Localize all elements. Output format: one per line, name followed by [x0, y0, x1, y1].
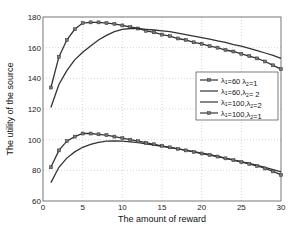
data-marker — [161, 144, 164, 147]
x-tick-label: 0 — [41, 203, 46, 212]
data-marker — [57, 149, 60, 152]
data-marker — [49, 166, 52, 169]
data-marker — [137, 140, 140, 143]
data-marker — [105, 134, 108, 137]
data-marker — [176, 37, 179, 40]
y-tick-label: 60 — [32, 197, 41, 206]
data-marker — [224, 48, 227, 51]
data-marker — [232, 159, 235, 162]
data-marker — [216, 155, 219, 158]
y-tick-label: 120 — [28, 105, 42, 114]
data-marker — [89, 21, 92, 24]
data-marker — [81, 22, 84, 25]
data-marker — [89, 132, 92, 135]
data-marker — [153, 31, 156, 34]
data-marker — [168, 35, 171, 38]
data-marker — [49, 86, 52, 89]
data-marker — [216, 46, 219, 49]
data-marker — [264, 167, 267, 170]
data-marker — [73, 135, 76, 138]
data-marker — [232, 50, 235, 53]
data-marker — [248, 55, 251, 58]
data-marker — [240, 52, 243, 55]
data-marker — [105, 22, 108, 25]
data-marker — [65, 39, 68, 42]
data-marker — [256, 57, 259, 60]
data-marker — [65, 140, 68, 143]
data-marker — [192, 41, 195, 44]
line-chart: 051015202530 6080100120140160180 The amo… — [0, 0, 300, 234]
data-marker — [280, 68, 283, 71]
data-marker — [272, 64, 275, 67]
data-marker — [97, 133, 100, 136]
legend: λ1=60 λ2=1λ1=60,λ2= 2λ1=100,λ2=2λ1=100,λ… — [196, 72, 278, 121]
data-marker — [240, 161, 243, 164]
x-axis-ticks: 051015202530 — [41, 203, 286, 212]
data-marker — [145, 141, 148, 144]
y-axis-ticks: 6080100120140160180 — [28, 13, 42, 206]
data-marker — [272, 170, 275, 173]
data-marker — [113, 22, 116, 25]
data-marker — [256, 165, 259, 168]
data-marker — [208, 154, 211, 157]
data-marker — [184, 149, 187, 152]
y-tick-label: 180 — [28, 13, 42, 22]
data-marker — [57, 55, 60, 58]
y-tick-label: 140 — [28, 74, 42, 83]
x-tick-label: 20 — [197, 203, 206, 212]
x-tick-label: 25 — [237, 203, 246, 212]
data-marker — [264, 60, 267, 63]
x-tick-label: 5 — [80, 203, 85, 212]
y-axis-label: The utility of the source — [5, 62, 15, 155]
data-marker — [113, 135, 116, 138]
x-axis-label: The amount of reward — [118, 214, 206, 224]
data-marker — [184, 39, 187, 42]
series-line — [49, 132, 282, 176]
data-marker — [121, 137, 124, 140]
data-marker — [73, 28, 76, 31]
data-marker — [224, 157, 227, 160]
data-marker — [248, 162, 251, 165]
data-marker — [97, 21, 100, 24]
y-tick-label: 80 — [32, 166, 41, 175]
data-marker — [192, 150, 195, 153]
y-tick-label: 100 — [28, 136, 42, 145]
data-marker — [176, 147, 179, 150]
data-marker — [200, 42, 203, 45]
data-marker — [161, 33, 164, 36]
data-marker — [153, 143, 156, 146]
x-tick-label: 15 — [158, 203, 167, 212]
data-marker — [129, 138, 132, 141]
data-marker — [280, 173, 283, 176]
data-marker — [200, 152, 203, 155]
data-marker — [81, 132, 84, 135]
x-tick-label: 10 — [118, 203, 127, 212]
data-marker — [208, 45, 211, 48]
data-marker — [121, 24, 124, 27]
data-marker — [168, 146, 171, 149]
x-tick-label: 30 — [277, 203, 286, 212]
y-tick-label: 160 — [28, 44, 42, 53]
